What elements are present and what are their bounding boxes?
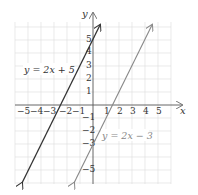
x-axis-label: x [180, 105, 186, 116]
svg-text:−4: −4 [30, 106, 44, 116]
coordinate-plane: x y −5 −4 −3 −2 −1 1 2 3 4 5 5 4 3 2 1 −… [0, 0, 198, 195]
svg-text:1: 1 [104, 106, 110, 116]
svg-text:−2: −2 [59, 106, 72, 116]
y-axis-label: y [81, 8, 88, 19]
line1-label: y = 2x + 5 [23, 64, 75, 75]
line-y-2x-plus-5 [22, 25, 100, 183]
svg-text:4: 4 [143, 106, 149, 116]
line2-label: y = 2x − 3 [101, 130, 153, 141]
svg-text:2: 2 [117, 106, 123, 116]
svg-text:−5: −5 [82, 164, 96, 174]
svg-text:2: 2 [86, 73, 92, 83]
svg-text:−5: −5 [17, 106, 31, 116]
svg-text:3: 3 [130, 106, 136, 116]
svg-text:1: 1 [86, 86, 92, 96]
svg-text:−3: −3 [43, 106, 57, 116]
svg-text:−2: −2 [82, 125, 95, 135]
svg-text:5: 5 [156, 106, 162, 116]
svg-text:3: 3 [86, 60, 92, 70]
svg-text:−1: −1 [82, 112, 95, 122]
